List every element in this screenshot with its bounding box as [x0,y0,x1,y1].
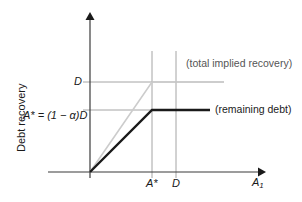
total-implied-recovery-curve [90,82,224,172]
formula-annotation: A* = (1 − α)D [23,110,87,121]
remaining-debt-curve [90,110,210,172]
x-axis-title: A1 [252,177,264,190]
x-tick-label-astar: A* [146,178,158,189]
y-axis-arrowhead [86,12,95,20]
y-axis-title: Debt recovery [16,0,30,152]
debt-recovery-diagram: Debt recovery A* = (1 − α)D D A* D A1 (t… [0,0,302,202]
legend-label-total-implied-recovery: (total implied recovery) [186,58,292,69]
formula-text: A* = (1 − α)D [23,109,87,121]
y-tick-label-D: D [74,76,82,87]
diagram-canvas [0,0,302,202]
implied-recovery-line [90,82,224,172]
x-axis-title-subscript: 1 [259,181,263,190]
x-tick-label-d: D [172,178,180,189]
remaining-debt-line [90,110,210,172]
axes [48,12,266,178]
legend-label-remaining-debt: (remaining debt) [215,104,291,115]
